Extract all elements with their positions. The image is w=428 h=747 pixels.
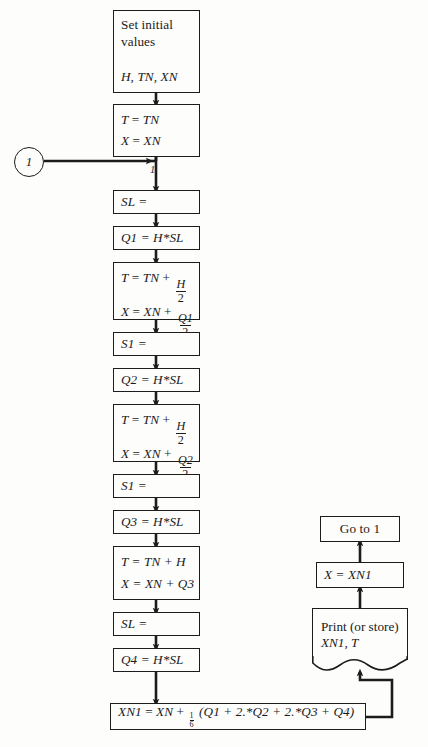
node-print-document: Print (or store) XN1, T <box>312 608 408 672</box>
step-3-x: X = XN + Q3 <box>114 576 199 593</box>
assign-x-xn1-text: X = XN1 <box>317 567 403 584</box>
node-go-to-1: Go to 1 <box>320 516 400 542</box>
init-assign-line-1: T = TN <box>114 112 199 129</box>
q3-text: Q3 = H*SL <box>114 514 199 531</box>
node-q2: Q2 = H*SL <box>113 368 200 392</box>
flowchart-canvas: Set initial values H, TN, XN T = TN X = … <box>0 0 428 747</box>
node-q1: Q1 = H*SL <box>113 226 200 250</box>
step-1-t: T = TN + H2 <box>114 270 199 304</box>
node-init-assign: T = TN X = XN <box>113 104 200 157</box>
node-sl-assign-2: SL = <box>113 612 200 636</box>
print-line-1: Print (or store) <box>313 619 407 635</box>
step-2-t: T = TN + H2 <box>114 412 199 446</box>
edge-label-1: 1 <box>150 164 155 175</box>
go-to-1-text: Go to 1 <box>321 521 399 538</box>
node-final-formula: XN1 = XN + 16 (Q1 + 2.*Q2 + 2.*Q3 + Q4) <box>110 703 366 730</box>
set-initial-title-2: values <box>114 34 199 51</box>
node-sl-assign-1: SL = <box>113 190 200 214</box>
node-s1-assign-b: S1 = <box>113 474 200 498</box>
print-line-2: XN1, T <box>313 635 407 651</box>
node-step-1: T = TN + H2 X = XN + Q12 <box>113 262 200 320</box>
final-formula-text: XN1 = XN + 16 (Q1 + 2.*Q2 + 2.*Q3 + Q4) <box>111 704 365 730</box>
set-initial-params: H, TN, XN <box>114 69 199 86</box>
step-3-t: T = TN + H <box>114 554 199 571</box>
set-initial-title-1: Set initial <box>114 17 199 34</box>
sl-assign-2-text: SL = <box>114 616 199 633</box>
node-q4: Q4 = H*SL <box>113 648 200 672</box>
node-assign-x-xn1: X = XN1 <box>316 562 404 588</box>
entry-connector-1: 1 <box>14 147 44 177</box>
node-set-initial-values: Set initial values H, TN, XN <box>113 10 200 93</box>
sl-assign-1-text: SL = <box>114 194 199 211</box>
q1-text: Q1 = H*SL <box>114 230 199 247</box>
entry-connector-label: 1 <box>26 154 33 170</box>
document-wave-edge <box>312 656 408 672</box>
node-s1-assign-a: S1 = <box>113 332 200 356</box>
node-step-2: T = TN + H2 X = XN + Q22 <box>113 404 200 462</box>
q2-text: Q2 = H*SL <box>114 372 199 389</box>
node-step-3: T = TN + H X = XN + Q3 <box>113 546 200 600</box>
node-q3: Q3 = H*SL <box>113 510 200 534</box>
s1-assign-a-text: S1 = <box>114 336 199 353</box>
q4-text: Q4 = H*SL <box>114 652 199 669</box>
s1-assign-b-text: S1 = <box>114 478 199 495</box>
init-assign-line-2: X = XN <box>114 133 199 150</box>
